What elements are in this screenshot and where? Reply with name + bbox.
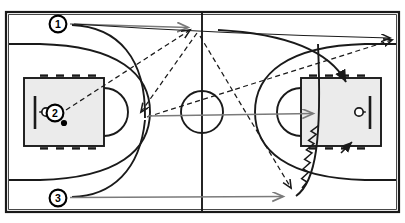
play-diagram-canvas: 1 2 3 (0, 0, 405, 223)
player-marker-1[interactable]: 1 (50, 16, 67, 33)
action-pass-from-3-right (70, 197, 283, 198)
player-1-label: 1 (55, 18, 61, 30)
player-2-label: 2 (52, 107, 58, 119)
player-marker-2[interactable]: 2 (47, 105, 64, 122)
ball-marker (61, 120, 67, 126)
player-3-label: 3 (55, 192, 61, 204)
player-marker-3[interactable]: 3 (50, 190, 67, 207)
basketball-court-svg: 1 2 3 (0, 0, 405, 223)
